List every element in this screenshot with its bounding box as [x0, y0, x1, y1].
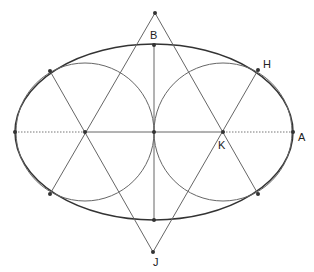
label-B: B: [150, 29, 157, 41]
point-K: [221, 130, 225, 134]
point-J: [151, 250, 155, 254]
line-J-to-H: [153, 70, 258, 252]
point-B: [152, 43, 156, 47]
point-bottom-right: [256, 192, 260, 196]
point-left-center: [83, 130, 87, 134]
line-J-to-top-left: [50, 71, 153, 252]
label-J: J: [153, 256, 159, 268]
line-apex-to-bottom-right: [155, 13, 258, 194]
point-bottom-left: [48, 192, 52, 196]
point-top-left: [48, 69, 52, 73]
geometry-diagram: B H A K J: [0, 0, 314, 272]
point-apex: [153, 11, 157, 15]
point-A: [291, 130, 295, 134]
label-H: H: [263, 58, 271, 70]
point-H: [256, 68, 260, 72]
line-apex-to-bottom-left: [50, 13, 155, 194]
point-left: [13, 130, 17, 134]
label-K: K: [218, 139, 226, 151]
label-A: A: [298, 131, 306, 143]
point-center: [152, 130, 156, 134]
point-bottom: [152, 218, 156, 222]
